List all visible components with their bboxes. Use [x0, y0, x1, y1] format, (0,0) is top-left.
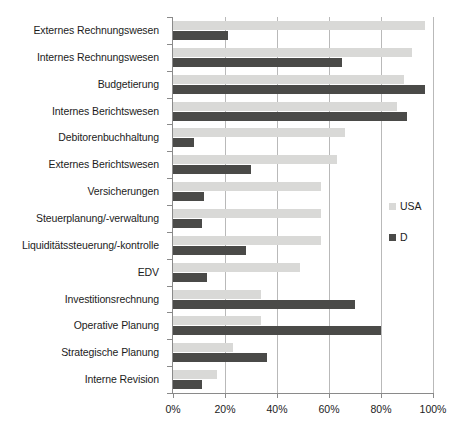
category-label: Investitionsrechnung	[0, 286, 166, 313]
x-tick-label: 100%	[420, 403, 447, 415]
category-label: Liquiditätssteuerung/-kontrolle	[0, 232, 166, 259]
legend-item-usa: USA	[389, 200, 451, 212]
bar-d	[173, 326, 381, 335]
x-tick-mark	[277, 393, 278, 398]
bar-usa	[173, 236, 321, 245]
x-tick-label: 60%	[318, 403, 339, 415]
bar-usa	[173, 75, 404, 84]
category-label: Internes Berichtswesen	[0, 98, 166, 125]
bar-usa	[173, 209, 321, 218]
bar-d	[173, 58, 342, 67]
category-label: EDV	[0, 259, 166, 286]
legend-label: D	[400, 231, 408, 243]
bar-usa	[173, 316, 261, 325]
bar-group	[173, 259, 433, 286]
category-label: Strategische Planung	[0, 339, 166, 366]
x-axis-line	[172, 393, 434, 394]
category-label: Versicherungen	[0, 178, 166, 205]
category-axis-labels: Externes Rechnungswesen Internes Rechnun…	[0, 17, 166, 393]
y-tick-mark	[167, 312, 172, 313]
legend-label: USA	[400, 200, 422, 212]
bar-d	[173, 112, 407, 121]
category-label: Debitorenbuchhaltung	[0, 124, 166, 151]
category-label: Internes Rechnungswesen	[0, 44, 166, 71]
category-label: Externes Rechnungswesen	[0, 17, 166, 44]
bar-usa	[173, 48, 412, 57]
y-tick-mark	[167, 17, 172, 18]
bar-d	[173, 85, 425, 94]
bar-d	[173, 31, 228, 40]
bar-group	[173, 124, 433, 151]
bar-group	[173, 151, 433, 178]
x-tick-label: 20%	[214, 403, 235, 415]
bar-usa	[173, 182, 321, 191]
legend: USA D	[389, 200, 451, 262]
bar-usa	[173, 21, 425, 30]
category-label: Externes Berichtswesen	[0, 151, 166, 178]
legend-swatch-icon	[389, 234, 396, 241]
x-tick-mark	[329, 393, 330, 398]
x-tick-mark	[433, 393, 434, 398]
x-tick-label: 40%	[266, 403, 287, 415]
x-tick-label: 80%	[370, 403, 391, 415]
bar-group	[173, 44, 433, 71]
bar-usa	[173, 343, 233, 352]
bar-d	[173, 192, 204, 201]
bar-usa	[173, 370, 217, 379]
bar-group	[173, 366, 433, 393]
category-label: Steuerplanung/-verwaltung	[0, 205, 166, 232]
bar-d	[173, 165, 251, 174]
x-tick-label: 0%	[165, 403, 180, 415]
bar-group	[173, 286, 433, 313]
bar-d	[173, 353, 267, 362]
bar-d	[173, 219, 202, 228]
bar-d	[173, 246, 246, 255]
legend-item-d: D	[389, 231, 451, 243]
y-tick-mark	[167, 259, 172, 260]
bar-d	[173, 138, 194, 147]
bar-group	[173, 98, 433, 125]
bar-chart: Externes Rechnungswesen Internes Rechnun…	[0, 0, 460, 435]
category-label: Operative Planung	[0, 312, 166, 339]
bar-usa	[173, 102, 397, 111]
y-tick-mark	[167, 44, 172, 45]
bar-d	[173, 380, 202, 389]
y-tick-mark	[167, 178, 172, 179]
bar-usa	[173, 290, 261, 299]
bar-group	[173, 339, 433, 366]
bar-usa	[173, 263, 300, 272]
y-tick-mark	[167, 366, 172, 367]
y-tick-mark	[167, 339, 172, 340]
x-tick-mark	[225, 393, 226, 398]
bar-group	[173, 17, 433, 44]
bar-d	[173, 300, 355, 309]
y-tick-mark	[167, 151, 172, 152]
category-label: Budgetierung	[0, 71, 166, 98]
y-tick-mark	[167, 393, 172, 394]
bar-group	[173, 71, 433, 98]
y-tick-mark	[167, 71, 172, 72]
x-tick-mark	[173, 393, 174, 398]
x-tick-mark	[381, 393, 382, 398]
legend-swatch-icon	[389, 203, 396, 210]
bar-d	[173, 273, 207, 282]
y-tick-mark	[167, 98, 172, 99]
bar-group	[173, 312, 433, 339]
category-label: Interne Revision	[0, 366, 166, 393]
y-tick-mark	[167, 205, 172, 206]
y-tick-mark	[167, 286, 172, 287]
y-tick-mark	[167, 124, 172, 125]
bar-usa	[173, 128, 345, 137]
bar-usa	[173, 155, 337, 164]
y-tick-mark	[167, 232, 172, 233]
